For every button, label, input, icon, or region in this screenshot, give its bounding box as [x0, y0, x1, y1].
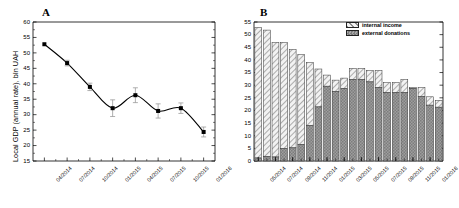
bar-external-donations [367, 82, 374, 161]
panel-b-y-tick: 10 [230, 133, 251, 139]
bar-external-donations [306, 125, 313, 161]
bar-internal-income [358, 69, 365, 80]
panel-a-y-tick: 55 [8, 34, 30, 40]
bar-internal-income [401, 80, 408, 93]
panel-b-legend: internal income external donations [346, 22, 410, 37]
bar-external-donations [384, 93, 391, 161]
panel-b-y-tick: 30 [230, 82, 251, 88]
panel-a-y-tick: 35 [8, 96, 30, 102]
bar-internal-income [306, 63, 313, 126]
bar-internal-income [384, 83, 391, 93]
bar-external-donations [298, 144, 305, 161]
panel-a: A Local GDP (annual rate), bln UAH 15202… [0, 0, 228, 208]
bar-internal-income [324, 75, 331, 86]
bar-internal-income [435, 100, 442, 107]
legend-label-external-donations: external donations [362, 30, 410, 36]
panel-b-y-tick: 15 [230, 120, 251, 126]
panel-b: B internal income external donations 051… [228, 0, 456, 208]
bar-internal-income [349, 69, 356, 80]
legend-item-internal-income: internal income [346, 22, 410, 28]
bar-internal-income [392, 83, 399, 93]
panel-a-y-tick: 25 [8, 127, 30, 133]
bar-external-donations [375, 88, 382, 161]
bar-external-donations [315, 107, 322, 161]
bar-internal-income [315, 69, 322, 107]
bar-external-donations [341, 89, 348, 161]
panel-b-y-tick: 25 [230, 95, 251, 101]
panel-b-y-tick: 35 [230, 69, 251, 75]
bar-internal-income [298, 55, 305, 145]
legend-swatch-external-donations [346, 30, 359, 36]
bar-internal-income [289, 50, 296, 148]
bar-external-donations [358, 79, 365, 161]
bar-internal-income [255, 28, 262, 158]
bar-external-donations [401, 93, 408, 161]
panel-b-y-tick: 20 [230, 107, 251, 113]
bar-external-donations [349, 80, 356, 161]
bar-internal-income [367, 71, 374, 82]
bar-external-donations [324, 86, 331, 161]
bar-external-donations [427, 105, 434, 161]
bar-internal-income [332, 80, 339, 91]
bar-internal-income [375, 71, 382, 88]
panel-b-y-tick: 40 [230, 57, 251, 63]
panel-a-y-tick: 45 [8, 65, 30, 71]
panel-a-y-tick: 20 [8, 142, 30, 148]
panel-b-y-tick: 50 [230, 31, 251, 37]
bar-external-donations [435, 107, 442, 161]
panel-b-y-tick: 0 [230, 158, 251, 164]
panel-a-y-tick: 40 [8, 81, 30, 87]
bar-internal-income [341, 78, 348, 89]
bar-internal-income [263, 30, 270, 156]
legend-label-internal-income: internal income [362, 22, 402, 28]
legend-swatch-internal-income [346, 22, 359, 28]
legend-item-external-donations: external donations [346, 30, 410, 36]
bar-internal-income [281, 42, 288, 148]
bar-external-donations [418, 96, 425, 161]
bar-external-donations [392, 93, 399, 161]
panel-b-y-tick: 55 [230, 19, 251, 25]
bar-external-donations [409, 89, 416, 161]
panel-a-y-tick: 30 [8, 111, 30, 117]
bar-internal-income [272, 42, 279, 156]
panel-a-y-tick: 15 [8, 158, 30, 164]
panel-a-y-tick: 50 [8, 50, 30, 56]
bar-internal-income [427, 97, 434, 105]
panel-b-y-tick: 45 [230, 44, 251, 50]
bar-internal-income [418, 88, 425, 97]
panel-b-y-tick: 5 [230, 145, 251, 151]
bar-external-donations [332, 91, 339, 161]
panel-a-y-tick: 60 [8, 19, 30, 25]
